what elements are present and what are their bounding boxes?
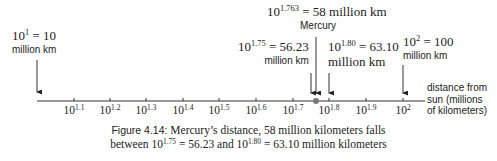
tick-label: 101.4 [173,104,194,116]
label-100: 102 = 100 million km [403,35,454,61]
caption-line-2: between 101.75 = 56.23 and 101.80 = 63.1… [0,137,497,153]
axis-label: distance from sun (millions of kilometer… [427,82,487,117]
tick-label: 101.9 [356,104,377,116]
label-10: 101 = 10 million km [12,29,56,55]
tick-label: 101.6 [246,104,267,116]
label-56: 101.75 = 56.23 million km [238,40,309,66]
caption-line-1: Figure 4.14: Mercury’s distance, 58 mill… [0,123,497,137]
figure-caption: Figure 4.14: Mercury’s distance, 58 mill… [0,123,497,153]
tick-label: 101.3 [136,104,157,116]
label-mercury: 101.763 = 58 million km Mercury [267,5,387,31]
tick-label: 101.2 [100,104,121,116]
tick-label: 101.7 [283,104,304,116]
tick-label: 101.1 [64,104,85,116]
tick-label: 102 [395,104,410,116]
label-63: 101.80 = 63.10 million km [328,40,399,69]
tick-label: 101.8 [319,104,340,116]
tick-label: 101.5 [209,104,230,116]
